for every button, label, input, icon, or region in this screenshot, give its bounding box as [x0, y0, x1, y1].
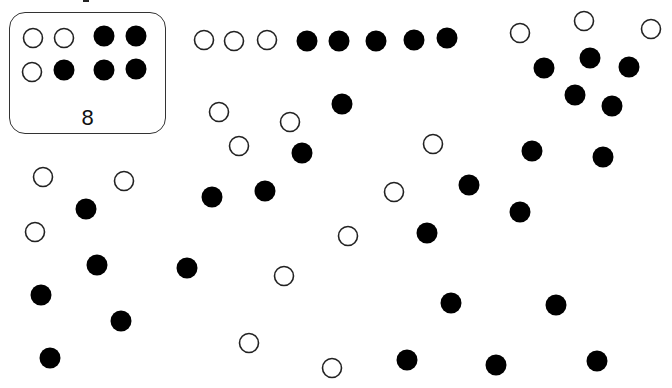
- dot-filled: [177, 258, 198, 279]
- key-dot-filled: [94, 60, 115, 81]
- dot-hollow: [115, 172, 134, 191]
- dot-filled: [486, 355, 507, 376]
- dot-filled: [522, 141, 543, 162]
- dot-filled: [441, 293, 462, 314]
- dot-filled: [366, 31, 387, 52]
- dot-filled: [297, 31, 318, 52]
- key-dot-filled: [54, 60, 75, 81]
- dot-hollow: [323, 359, 342, 378]
- dot-hollow: [240, 334, 259, 353]
- dot-hollow: [230, 137, 249, 156]
- dot-hollow: [34, 168, 53, 187]
- dot-hollow: [210, 103, 229, 122]
- dot-filled: [404, 30, 425, 51]
- key-dot-hollow: [23, 63, 42, 82]
- dot-filled: [329, 31, 350, 52]
- dot-filled: [31, 285, 52, 306]
- dot-filled: [593, 147, 614, 168]
- dot-filled: [510, 202, 531, 223]
- key-dot-filled: [126, 59, 147, 80]
- dot-hollow: [26, 223, 45, 242]
- dot-filled: [587, 351, 608, 372]
- key-dot-filled: [126, 26, 147, 47]
- dot-filled: [255, 181, 276, 202]
- dot-filled: [580, 48, 601, 69]
- dot-filled: [87, 255, 108, 276]
- dot-hollow: [424, 135, 443, 154]
- dot-hollow: [511, 24, 530, 43]
- dot-filled: [202, 187, 223, 208]
- dot-filled: [546, 295, 567, 316]
- dot-filled: [40, 348, 61, 369]
- dot-filled: [619, 57, 640, 78]
- key-dot-hollow: [55, 29, 74, 48]
- dot-hollow: [339, 227, 358, 246]
- dot-filled: [565, 85, 586, 106]
- dot-filled: [292, 143, 313, 164]
- dot-hollow: [385, 183, 404, 202]
- dot-hollow: [195, 31, 214, 50]
- dot-filled: [534, 58, 555, 79]
- dot-hollow: [281, 113, 300, 132]
- dot-hollow: [575, 12, 594, 31]
- key-dot-hollow: [24, 29, 43, 48]
- dot-filled: [602, 96, 623, 117]
- key-dot-filled: [94, 26, 115, 47]
- dot-filled: [417, 223, 438, 244]
- dot-hollow: [258, 31, 277, 50]
- dot-filled: [397, 350, 418, 371]
- dot-filled: [459, 175, 480, 196]
- dot-hollow: [225, 32, 244, 51]
- dot-hollow: [275, 267, 294, 286]
- dot-filled: [111, 311, 132, 332]
- dot-hollow: [642, 20, 661, 39]
- dot-filled: [437, 28, 458, 49]
- dot-filled: [332, 94, 353, 115]
- dot-field: [0, 0, 672, 388]
- dot-filled: [76, 199, 97, 220]
